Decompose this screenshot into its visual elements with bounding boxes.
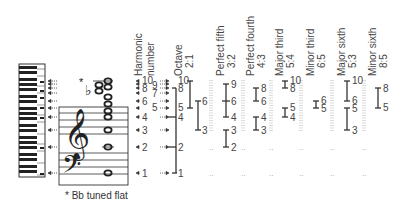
svg-text:6: 6 [261, 96, 267, 107]
svg-text:5: 5 [352, 103, 358, 114]
svg-text:3: 3 [352, 125, 358, 136]
svg-text:..: .. [209, 143, 213, 152]
major-sixth-column [344, 81, 350, 130]
minor-sixth-column [375, 88, 381, 108]
harmonic-series-diagram: 𝄞 𝄢 ♭ * * Bb tuned flat Harmonic number [0, 0, 411, 210]
svg-text:5: 5 [383, 102, 389, 113]
svg-text:1: 1 [142, 168, 148, 179]
svg-text:..: .. [241, 169, 245, 178]
svg-text:4: 4 [290, 112, 296, 123]
svg-text:4: 4 [142, 112, 148, 123]
svg-text:6: 6 [231, 96, 237, 107]
svg-text:5: 5 [152, 102, 158, 113]
svg-text:5:4: 5:4 [285, 54, 296, 68]
svg-text:..: .. [299, 143, 303, 152]
svg-text:5: 5 [321, 103, 327, 114]
svg-text:3: 3 [261, 125, 267, 136]
svg-text:1: 1 [178, 168, 184, 179]
svg-text:9: 9 [231, 79, 237, 90]
minor-third-column [313, 101, 319, 108]
svg-text:Major third: Major third [274, 29, 285, 76]
svg-text:6:5: 6:5 [316, 54, 327, 68]
piano-keyboard [19, 64, 45, 177]
svg-text:8: 8 [290, 83, 296, 94]
svg-text:3: 3 [231, 125, 237, 136]
svg-text:..: .. [269, 169, 273, 178]
svg-text:8: 8 [178, 83, 184, 94]
svg-text:10: 10 [352, 75, 364, 86]
perfect-fourth-column [253, 88, 259, 130]
svg-text:Minor third: Minor third [305, 29, 316, 76]
svg-text:..: .. [209, 169, 213, 178]
svg-text:3: 3 [202, 125, 208, 136]
svg-text:8: 8 [261, 83, 267, 94]
svg-text:2: 2 [142, 142, 148, 153]
svg-text:7: 7 [152, 88, 158, 99]
keyboard-arrows [48, 80, 57, 175]
octave-column [169, 81, 201, 173]
svg-text:5:3: 5:3 [347, 54, 358, 68]
svg-text:8: 8 [142, 83, 148, 94]
harmonic-numbers: 10 9 8 7 6 5 4 3 2 1 [136, 75, 169, 179]
svg-text:3: 3 [142, 125, 148, 136]
svg-text:..: .. [269, 143, 273, 152]
interval-headers: Octave 2:1 Perfect fifth 3:2 Perfect fou… [173, 16, 389, 76]
svg-text:4: 4 [231, 112, 237, 123]
svg-text:Perfect fourth: Perfect fourth [245, 16, 256, 76]
major-third-column [282, 81, 288, 117]
svg-text:6: 6 [142, 96, 148, 107]
svg-text:Perfect fifth: Perfect fifth [215, 25, 226, 76]
svg-text:2: 2 [178, 142, 184, 153]
svg-text:Major sixth: Major sixth [336, 28, 347, 76]
harmonic-header-line2: number [145, 41, 156, 76]
flat-marker: * [79, 76, 84, 88]
perfect-fifth-column [222, 84, 230, 147]
svg-text:..: .. [299, 169, 303, 178]
svg-text:Octave: Octave [173, 44, 184, 76]
svg-text:..: .. [241, 143, 245, 152]
svg-text:Minor sixth: Minor sixth [367, 28, 378, 76]
svg-text:6: 6 [202, 96, 208, 107]
svg-text:3:2: 3:2 [226, 54, 237, 68]
bass-clef-icon: 𝄢 [62, 150, 81, 185]
svg-text:4:3: 4:3 [256, 54, 267, 68]
svg-text:2:1: 2:1 [184, 54, 195, 68]
grand-staff: 𝄞 𝄢 ♭ * [59, 76, 128, 185]
svg-text:..: .. [330, 143, 334, 152]
svg-text:2: 2 [231, 142, 237, 153]
svg-text:..: .. [330, 169, 334, 178]
flat-sign-icon: ♭ [85, 82, 92, 98]
harmonic-header-line1: Harmonic [133, 33, 144, 76]
svg-text:..: .. [362, 169, 366, 178]
svg-text:8: 8 [383, 83, 389, 94]
svg-text:..: .. [362, 143, 366, 152]
svg-text:8:5: 8:5 [378, 54, 389, 68]
svg-text:4: 4 [261, 112, 267, 123]
svg-text:4: 4 [178, 112, 184, 123]
footnote: * Bb tuned flat [65, 190, 128, 201]
